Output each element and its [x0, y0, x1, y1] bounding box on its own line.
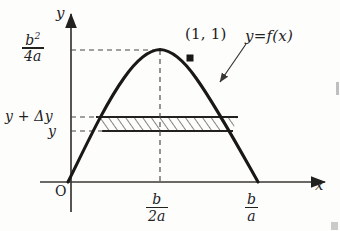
parabola-figure: y x O b2 4a y + Δy y b 2a b a (1, 1) y=f… [0, 0, 340, 231]
y-tick-label-vertex-height: b2 4a [22, 31, 44, 64]
parabola-curve [68, 50, 258, 183]
fraction-right-root: b a [245, 192, 258, 223]
x-tick-label-right-root: b a [245, 192, 258, 223]
point-marker [187, 55, 194, 62]
scan-artifact-bottom-corner [331, 222, 338, 230]
hatched-strip-fill [97, 117, 238, 131]
fraction-denominator: a [245, 209, 258, 223]
fraction-denominator: 4a [22, 49, 44, 63]
scan-artifact-right-edge [336, 82, 339, 95]
y-axis-label: y [56, 6, 65, 21]
x-axis-label: x [315, 178, 324, 193]
curve-label-arrow [220, 44, 246, 82]
fraction-vertex-abscissa: b 2a [146, 192, 168, 223]
fraction-vertex-height: b2 4a [22, 31, 44, 64]
y-tick-label-upper-level: y + Δy [5, 109, 53, 123]
fraction-numerator: b2 [23, 31, 42, 47]
fraction-numerator-exponent: 2 [34, 30, 40, 41]
fraction-denominator: 2a [146, 209, 168, 223]
fraction-numerator: b [245, 192, 258, 206]
hatched-strip [96, 117, 238, 131]
curve-equation-label: y=f(x) [245, 29, 293, 44]
y-tick-label-lower-level: y [48, 124, 56, 138]
x-tick-label-vertex-abscissa: b 2a [146, 192, 168, 223]
point-coordinate-label: (1, 1) [185, 27, 227, 42]
origin-label: O [55, 184, 67, 198]
fraction-numerator: b [150, 192, 163, 206]
